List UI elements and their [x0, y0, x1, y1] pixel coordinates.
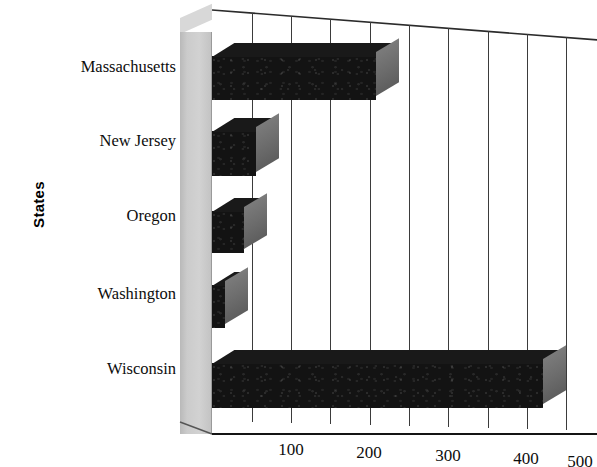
- category-label-new-jersey: New Jersey: [8, 131, 176, 151]
- bar-face-top: [212, 350, 565, 364]
- x-tick-500: 500: [567, 452, 593, 467]
- bar-washington: [212, 272, 225, 315]
- bar-massachusetts: [212, 43, 376, 87]
- plot-bottom-rail: [180, 408, 597, 450]
- x-tick-400: 400: [513, 449, 539, 467]
- x-tick-300: 300: [435, 446, 461, 466]
- bar-chart: States Massachusetts New Jersey Oregon W…: [0, 0, 597, 467]
- wall-left-top-cap: [180, 4, 212, 34]
- bar-face-front: [212, 131, 256, 176]
- bar-wisconsin: [212, 350, 543, 395]
- bar-face-front: [212, 56, 376, 100]
- gridline-450: [566, 37, 567, 430]
- bar-face-top: [212, 43, 398, 57]
- x-tick-200: 200: [356, 443, 382, 463]
- bar-oregon: [212, 198, 244, 240]
- bar-face-front: [212, 211, 244, 253]
- chart-title-fragment: [300, 0, 560, 2]
- bar-new-jersey: [212, 118, 256, 163]
- bar-face-front: [212, 285, 225, 328]
- axis-wall-left: [180, 32, 212, 434]
- category-label-washington: Washington: [8, 284, 176, 304]
- plot-area: [180, 10, 597, 442]
- category-label-wisconsin: Wisconsin: [8, 359, 176, 379]
- x-tick-100: 100: [278, 440, 304, 460]
- category-label-massachusetts: Massachusetts: [8, 57, 176, 77]
- category-label-oregon: Oregon: [8, 206, 176, 226]
- bar-face-front: [212, 363, 543, 408]
- category-label-list: Massachusetts New Jersey Oregon Washingt…: [0, 0, 176, 467]
